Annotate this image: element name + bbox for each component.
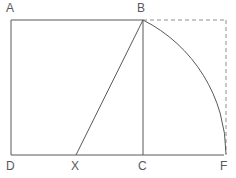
vertex-label-a: A — [6, 2, 14, 14]
geometry-canvas — [0, 0, 236, 178]
segment-xb-slant — [76, 20, 143, 155]
vertex-label-b: B — [137, 2, 145, 14]
geometry-figure: A B D X C F — [0, 0, 236, 178]
arc-b-to-f — [143, 20, 226, 154]
vertex-label-x: X — [71, 160, 79, 172]
vertex-label-c: C — [138, 160, 147, 172]
vertex-label-f: F — [220, 160, 227, 172]
vertex-label-d: D — [6, 160, 15, 172]
